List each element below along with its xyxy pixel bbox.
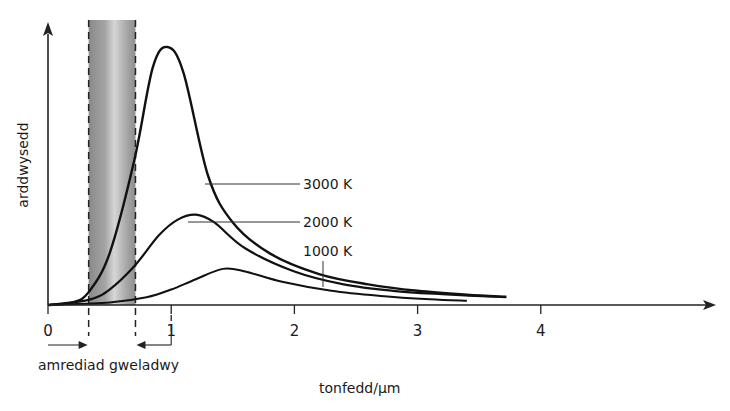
x-axis-title: tonfedd/µm	[319, 380, 401, 396]
curve-label: 3000 K	[303, 176, 353, 192]
visible-range-label: amrediad gweladwy	[38, 357, 179, 373]
visible-band	[89, 20, 136, 305]
x-tick-label: 0	[43, 322, 53, 340]
x-tick-label: 4	[536, 322, 546, 340]
range-arrow-left-head	[79, 341, 88, 349]
curve-label: 1000 K	[303, 243, 353, 259]
y-axis-arrow	[43, 22, 53, 36]
range-arrow-right-head	[136, 341, 145, 349]
y-axis-title: arddwysedd	[15, 122, 31, 207]
blackbody-chart: 01234 3000 K2000 K1000 K amrediad gwelad…	[0, 0, 730, 411]
curve-label: 2000 K	[303, 214, 353, 230]
x-tick-label: 2	[290, 322, 300, 340]
x-tick-label: 3	[413, 322, 423, 340]
